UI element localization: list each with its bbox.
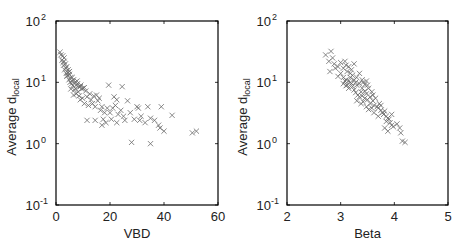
x-marker [357, 81, 362, 86]
x-marker [128, 110, 133, 115]
x-marker [342, 59, 347, 64]
y-tick-label: 10 [257, 137, 271, 152]
x-marker [170, 113, 175, 118]
x-marker [101, 117, 106, 122]
x-marker [364, 104, 369, 109]
x-tick-label: 40 [157, 209, 171, 224]
x-marker [378, 103, 383, 108]
y-tick-exponent: 0 [41, 135, 46, 145]
y-tick-label: 10 [26, 198, 40, 213]
x-marker [105, 106, 110, 111]
y-tick-label: 10 [26, 137, 40, 152]
x-marker [332, 61, 337, 66]
x-tick-label: 0 [52, 209, 59, 224]
x-tick-label: 4 [391, 209, 398, 224]
y-tick-label: 10 [257, 75, 271, 90]
x-marker [107, 110, 112, 115]
plot-vbd: 020406010-1100101102VBDAverage dlocal [4, 12, 225, 241]
x-tick-label: 3 [337, 209, 344, 224]
x-marker [122, 118, 127, 123]
x-marker [148, 141, 153, 146]
x-marker [136, 106, 141, 111]
x-marker [62, 55, 67, 60]
plot-beta: 234510-1100101102BetaAverage dlocal [235, 12, 452, 241]
x-marker [362, 88, 367, 93]
scatter-points [323, 49, 408, 145]
x-marker [398, 130, 403, 135]
x-marker [129, 140, 134, 145]
x-marker [109, 117, 114, 122]
x-tick-label: 5 [444, 209, 451, 224]
scatter-points [57, 50, 199, 147]
x-marker [323, 52, 328, 57]
x-marker [84, 118, 89, 123]
x-marker [137, 118, 142, 123]
x-marker [114, 120, 119, 125]
y-tick-exponent: 2 [272, 12, 277, 22]
y-axis-label: Average dlocal [4, 78, 21, 156]
x-marker [358, 89, 363, 94]
x-marker [145, 104, 150, 109]
x-marker [143, 120, 148, 125]
y-tick-exponent: 1 [272, 73, 277, 83]
axes-frame [56, 21, 218, 205]
y-tick-label: 10 [26, 14, 40, 29]
x-marker [389, 112, 394, 117]
y-tick-label: 10 [257, 14, 271, 29]
x-marker [335, 74, 340, 79]
y-tick-exponent: 0 [272, 135, 277, 145]
x-marker [351, 61, 356, 66]
x-marker [376, 114, 381, 119]
x-marker [114, 97, 119, 102]
x-marker [333, 66, 338, 71]
x-marker [93, 104, 98, 109]
x-marker [327, 69, 332, 74]
x-marker [106, 83, 111, 88]
x-marker [138, 114, 143, 119]
x-tick-label: 2 [283, 209, 290, 224]
y-axis-label: Average dlocal [235, 78, 252, 156]
x-marker [78, 97, 83, 102]
y-tick-exponent: 2 [41, 12, 46, 22]
x-marker [113, 103, 118, 108]
x-tick-label: 60 [211, 209, 225, 224]
x-marker [385, 129, 390, 134]
y-tick-label: 10 [257, 198, 271, 213]
x-tick-label: 20 [103, 209, 117, 224]
x-marker [349, 67, 354, 72]
x-marker [93, 118, 98, 123]
x-marker [121, 114, 126, 119]
y-tick-exponent: -1 [271, 196, 279, 206]
figure: 020406010-1100101102VBDAverage dlocal 23… [0, 0, 464, 247]
x-marker [161, 129, 166, 134]
x-marker [125, 98, 130, 103]
x-marker [89, 97, 94, 102]
x-axis-label: Beta [354, 226, 382, 241]
x-marker [326, 59, 331, 64]
y-tick-label: 10 [26, 75, 40, 90]
y-tick-exponent: 1 [41, 73, 46, 83]
x-marker [159, 104, 164, 109]
x-axis-label: VBD [124, 226, 151, 241]
axes-frame [287, 21, 448, 205]
x-marker [132, 117, 137, 122]
x-marker [97, 96, 102, 101]
y-tick-exponent: -1 [40, 196, 48, 206]
x-marker [328, 49, 333, 54]
x-marker [391, 124, 396, 129]
x-marker [371, 110, 376, 115]
x-marker [120, 84, 125, 89]
x-marker [76, 93, 81, 98]
